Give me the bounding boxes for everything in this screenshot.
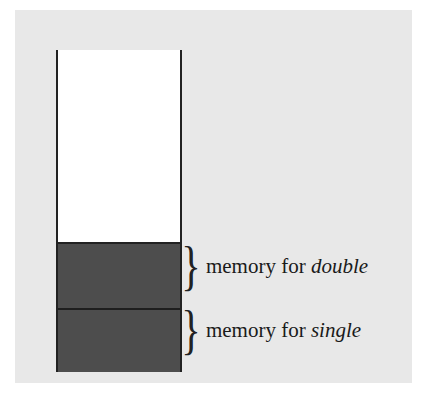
label-double-prefix: memory for <box>206 254 311 279</box>
label-single-prefix: memory for <box>206 318 311 343</box>
segment-single <box>58 308 180 372</box>
brace-icon: } <box>181 241 200 291</box>
segment-double <box>58 242 180 309</box>
memory-column <box>56 50 182 372</box>
label-single: } memory for single <box>178 305 361 355</box>
label-single-type: single <box>311 318 361 343</box>
label-double: } memory for double <box>178 241 368 291</box>
brace-icon: } <box>181 305 200 355</box>
label-double-type: double <box>311 254 368 279</box>
